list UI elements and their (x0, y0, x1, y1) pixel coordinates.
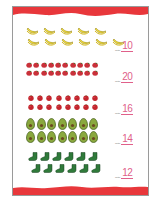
avocado-icon (37, 131, 46, 143)
raspberry-icon (83, 104, 89, 110)
strawberry-icon (62, 70, 68, 76)
top-red-wave-border (13, 7, 148, 18)
strawberry-total: Total 20 (115, 72, 133, 83)
sock-icon (55, 164, 65, 173)
total-label: Total (115, 113, 120, 116)
banana-icon (78, 38, 91, 46)
banana-icon (27, 38, 40, 46)
avocado-icon (89, 131, 98, 143)
banana-total: Total 10 (115, 41, 133, 52)
avocado-total: Total 14 (115, 134, 133, 145)
avocado-icon (68, 131, 77, 143)
banana-icon (95, 38, 108, 46)
total-value: 16 (121, 104, 133, 115)
sock-icon (43, 164, 53, 173)
avocado-icon (79, 118, 88, 130)
avocado-icon (26, 118, 35, 130)
sock-total: Total 12 (115, 168, 133, 179)
strawberry-icon (33, 62, 39, 68)
raspberry-icon (65, 95, 71, 101)
banana-icon (44, 38, 57, 46)
raspberry-icon (65, 104, 71, 110)
strawberry-icon (41, 62, 47, 68)
raspberry-icon (28, 95, 34, 101)
avocado-icon (79, 131, 88, 143)
strawberry-icon (77, 62, 83, 68)
strawberry-icon (84, 70, 90, 76)
sock-icon (64, 152, 74, 161)
raspberry-icon (46, 104, 52, 110)
raspberry-icon (37, 104, 43, 110)
strawberry-icon (55, 70, 61, 76)
raspberry-total: Total 16 (115, 104, 133, 115)
strawberry-icon (92, 62, 98, 68)
strawberry-icon (48, 70, 54, 76)
raspberry-icon (92, 95, 98, 101)
raspberry-icon (46, 95, 52, 101)
strawberry-icon (70, 62, 76, 68)
strawberry-icon (92, 70, 98, 76)
raspberry-icon (56, 95, 62, 101)
raspberry-icon (74, 104, 80, 110)
sock-icon (40, 152, 50, 161)
sock-icon (31, 164, 41, 173)
bottom-red-wave-border (13, 185, 148, 195)
total-value: 20 (121, 72, 133, 83)
strawberry-icon (62, 62, 68, 68)
strawberry-icon (70, 70, 76, 76)
sock-icon (88, 152, 98, 161)
raspberry-icon (56, 104, 62, 110)
raspberry-icon (28, 104, 34, 110)
avocado-icon (47, 131, 56, 143)
avocado-icon (89, 118, 98, 130)
strawberry-icon (33, 70, 39, 76)
banana-icon (94, 27, 107, 35)
strawberry-icon (77, 70, 83, 76)
total-label: Total (115, 143, 120, 146)
sock-icon (52, 152, 62, 161)
strawberry-icon (55, 62, 61, 68)
banana-icon (61, 38, 74, 46)
raspberry-icon (92, 104, 98, 110)
sock-icon (67, 164, 77, 173)
total-value: 14 (121, 134, 133, 145)
avocado-icon (58, 131, 67, 143)
strawberry-icon (48, 62, 54, 68)
strawberry-icon (41, 70, 47, 76)
avocado-icon (68, 118, 77, 130)
strawberry-icon (26, 70, 32, 76)
avocado-icon (47, 118, 56, 130)
avocado-icon (37, 118, 46, 130)
strawberry-icon (26, 62, 32, 68)
raspberry-icon (83, 95, 89, 101)
sock-icon (79, 164, 89, 173)
banana-icon (43, 27, 56, 35)
sock-icon (91, 164, 101, 173)
banana-icon (77, 27, 90, 35)
avocado-icon (58, 118, 67, 130)
raspberry-icon (74, 95, 80, 101)
banana-icon (60, 27, 73, 35)
total-value: 10 (121, 41, 133, 52)
raspberry-icon (37, 95, 43, 101)
total-label: Total (115, 50, 120, 53)
sock-icon (28, 152, 38, 161)
total-label: Total (115, 177, 120, 180)
total-value: 12 (121, 168, 133, 179)
banana-icon (26, 27, 39, 35)
avocado-icon (26, 131, 35, 143)
worksheet-page: Total 10 (12, 6, 149, 196)
sock-icon (76, 152, 86, 161)
strawberry-icon (84, 62, 90, 68)
total-label: Total (115, 81, 120, 84)
